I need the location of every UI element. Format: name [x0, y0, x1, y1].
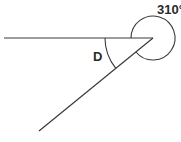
reflex-angle-label: 310° [157, 2, 181, 17]
angle-diagram: 310° D [0, 0, 181, 142]
interior-angle-label: D [93, 49, 102, 64]
diagram-svg: 310° D [0, 0, 181, 142]
interior-angle-arc [105, 38, 116, 68]
